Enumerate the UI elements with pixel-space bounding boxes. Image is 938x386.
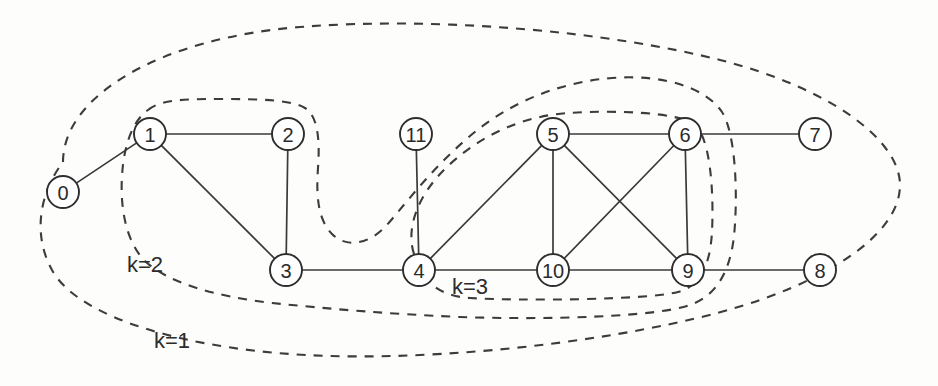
kcore-diagram-figure: 01234567891011 k=1k=2k=3 <box>0 0 938 386</box>
graph-edge-1-3 <box>161 145 274 258</box>
graph-node-2[interactable]: 2 <box>272 118 304 150</box>
graph-node-0[interactable]: 0 <box>47 176 79 208</box>
node-label-0: 0 <box>57 182 68 204</box>
graph-node-10[interactable]: 10 <box>537 254 569 286</box>
node-label-1: 1 <box>144 124 155 146</box>
shell-label-k1: k=1 <box>154 328 190 353</box>
node-label-10: 10 <box>542 260 564 282</box>
graph-node-5[interactable]: 5 <box>537 118 569 150</box>
shell-label-k3: k=3 <box>452 274 488 299</box>
graph-edge-4-11 <box>416 150 418 254</box>
node-label-9: 9 <box>682 260 693 282</box>
graph-edge-4-5 <box>430 145 542 258</box>
graph-node-3[interactable]: 3 <box>270 254 302 286</box>
node-label-4: 4 <box>413 260 424 282</box>
graph-node-11[interactable]: 11 <box>400 118 432 150</box>
node-label-6: 6 <box>679 124 690 146</box>
node-label-5: 5 <box>547 124 558 146</box>
shell-label-k2: k=2 <box>127 252 163 277</box>
node-label-3: 3 <box>280 260 291 282</box>
graph-edge-6-9 <box>685 150 687 254</box>
graph-node-8[interactable]: 8 <box>804 254 836 286</box>
graph-edge-2-3 <box>286 150 288 254</box>
node-label-8: 8 <box>814 260 825 282</box>
graph-node-1[interactable]: 1 <box>134 118 166 150</box>
node-label-2: 2 <box>282 124 293 146</box>
node-label-7: 7 <box>809 124 820 146</box>
graph-edge-layer <box>76 134 804 270</box>
graph-node-9[interactable]: 9 <box>672 254 704 286</box>
graph-node-4[interactable]: 4 <box>403 254 435 286</box>
graph-node-layer: 01234567891011 <box>47 118 836 286</box>
shell-boundary-k1 <box>41 23 900 356</box>
graph-node-6[interactable]: 6 <box>669 118 701 150</box>
shell-boundary-layer <box>41 23 900 356</box>
graph-node-7[interactable]: 7 <box>799 118 831 150</box>
node-label-11: 11 <box>406 124 427 146</box>
graph-canvas: 01234567891011 k=1k=2k=3 <box>0 0 938 386</box>
graph-edge-0-1 <box>76 143 136 183</box>
